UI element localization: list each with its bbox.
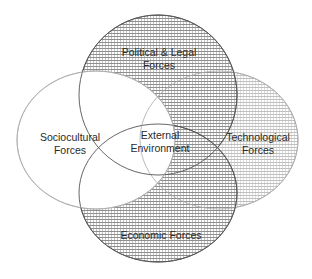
sociocultural-label: Sociocultural Forces (20, 131, 120, 157)
political-legal-label: Political & Legal Forces (96, 46, 222, 72)
sociocultural-label-line1: Sociocultural (20, 131, 120, 144)
political-label-line2: Forces (96, 59, 222, 72)
sociocultural-label-line2: Forces (20, 144, 120, 157)
economic-label-line1: Economic Forces (106, 229, 216, 242)
center-label-line2: Environment (115, 142, 205, 155)
technological-label-line2: Forces (213, 144, 303, 157)
political-label-line1: Political & Legal (96, 46, 222, 59)
technological-label-line1: Technological (213, 131, 303, 144)
economic-label: Economic Forces (106, 229, 216, 242)
technological-label: Technological Forces (213, 131, 303, 157)
center-label-line1: External (115, 129, 205, 142)
external-environment-label: External Environment (115, 129, 205, 155)
